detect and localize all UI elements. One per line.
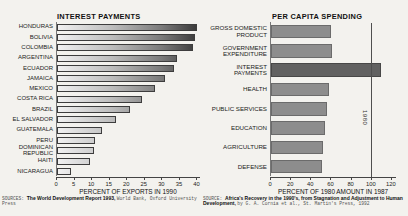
tick-mark xyxy=(109,178,110,181)
chart-row: GOVERNMENT EXPENDITURE xyxy=(204,41,396,60)
chart-title: PER CAPITA SPENDING xyxy=(272,13,396,21)
bar-track xyxy=(270,118,396,137)
bar-track xyxy=(56,135,200,145)
bar xyxy=(57,116,116,123)
bar-track xyxy=(56,94,200,104)
tick-label: 60 xyxy=(327,181,333,187)
chart-row: GROSS DOMESTIC PRODUCT xyxy=(204,22,396,41)
interest-payments-chart: INTEREST PAYMENTS HONDURASBOLIVIACOLOMBI… xyxy=(0,0,204,195)
category-label: ECUADOR xyxy=(0,66,56,72)
source-left: SOURCES: The World Development Report 19… xyxy=(0,196,203,207)
source-line: SOURCES: The World Development Report 19… xyxy=(0,196,408,207)
bar-track xyxy=(56,73,200,83)
plot-area: HONDURASBOLIVIACOLOMBIAARGENTINAECUADORJ… xyxy=(0,22,200,177)
category-label: EDUCATION xyxy=(204,125,270,131)
bar-track xyxy=(56,125,200,135)
bar-track xyxy=(56,156,200,166)
bar-track xyxy=(56,32,200,42)
category-label: HONDURAS xyxy=(0,24,56,30)
bar xyxy=(271,44,332,58)
category-label: ARGENTINA xyxy=(0,55,56,61)
chart-row: AGRICULTURE xyxy=(204,138,396,157)
chart-title: INTEREST PAYMENTS xyxy=(57,13,200,21)
tick-label: 5 xyxy=(72,181,75,187)
tick-mark xyxy=(310,178,311,181)
bar-track xyxy=(56,22,200,32)
bar-track xyxy=(56,166,200,176)
tick-label: 120 xyxy=(386,181,396,187)
bar-track xyxy=(270,41,396,60)
tick-label: 20 xyxy=(123,181,129,187)
x-axis-label: PERCENT OF 1980 AMOUNT IN 1987 xyxy=(270,188,396,195)
x-axis-label: PERCENT OF EXPORTS IN 1990 xyxy=(56,188,200,195)
bar-track xyxy=(56,63,200,73)
tick-mark xyxy=(391,178,392,181)
bar-track xyxy=(56,43,200,53)
tick-label: 30 xyxy=(158,181,164,187)
chart-row: HAITI xyxy=(0,156,200,166)
bar xyxy=(271,83,329,97)
bar-track xyxy=(270,80,396,99)
bar-track xyxy=(270,61,396,80)
reference-line-label: 1980 xyxy=(362,110,368,125)
tick-label: 20 xyxy=(287,181,293,187)
tick-label: 40 xyxy=(193,181,199,187)
bar xyxy=(57,65,174,72)
bar xyxy=(271,102,327,116)
category-label: GROSS DOMESTIC PRODUCT xyxy=(204,25,270,38)
chart-row: HEALTH xyxy=(204,80,396,99)
category-label: HAITI xyxy=(0,158,56,164)
category-label: GOVERNMENT EXPENDITURE xyxy=(204,45,270,58)
source-right: SOURCE: Africa's Recovery in the 1990's,… xyxy=(203,196,408,207)
chart-row: ARGENTINA xyxy=(0,53,200,63)
chart-row: JAMAICA xyxy=(0,73,200,83)
bar-track xyxy=(56,146,200,156)
x-axis: 0510152025303540 xyxy=(56,177,200,188)
category-label: PERU xyxy=(0,138,56,144)
bar xyxy=(57,75,165,82)
chart-row: INTEREST PAYMENTS xyxy=(204,61,396,80)
tick-mark xyxy=(196,178,197,181)
chart-row: ECUADOR xyxy=(0,63,200,73)
tick-label: 40 xyxy=(307,181,313,187)
tick-mark xyxy=(144,178,145,181)
plot-area: GROSS DOMESTIC PRODUCTGOVERNMENT EXPENDI… xyxy=(204,22,396,177)
chart-row: BRAZIL xyxy=(0,104,200,114)
category-label: PUBLIC SERVICES xyxy=(204,106,270,112)
bar xyxy=(57,55,177,62)
tick-mark xyxy=(56,178,57,181)
chart-row: COSTA RICA xyxy=(0,94,200,104)
category-label: EL SALVADOR xyxy=(0,117,56,123)
bar xyxy=(57,96,142,103)
category-label: GUATEMALA xyxy=(0,127,56,133)
chart-row: DOMINICAN REPUBLIC xyxy=(0,146,200,156)
tick-mark xyxy=(330,178,331,181)
chart-row: BOLIVIA xyxy=(0,32,200,42)
chart-row: MEXICO xyxy=(0,84,200,94)
tick-mark xyxy=(74,178,75,181)
bar xyxy=(57,168,71,175)
bar-track xyxy=(56,53,200,63)
bar-track xyxy=(270,138,396,157)
bar xyxy=(271,141,323,155)
bar-track xyxy=(270,157,396,176)
tick-mark xyxy=(290,178,291,181)
bar-track xyxy=(56,115,200,125)
tick-mark xyxy=(179,178,180,181)
bar xyxy=(57,85,155,92)
bar-track xyxy=(56,84,200,94)
tick-mark xyxy=(371,178,372,181)
bar xyxy=(57,137,95,144)
chart-row: HONDURAS xyxy=(0,22,200,32)
category-label: HEALTH xyxy=(204,86,270,92)
category-label: NICARAGUA xyxy=(0,169,56,175)
tick-label: 35 xyxy=(176,181,182,187)
tick-label: 0 xyxy=(268,181,271,187)
bar xyxy=(271,121,325,135)
tick-mark xyxy=(270,178,271,181)
tick-label: 10 xyxy=(88,181,94,187)
chart-row: GUATEMALA xyxy=(0,125,200,135)
bar-track xyxy=(270,99,396,118)
bar xyxy=(57,34,195,41)
tick-label: 15 xyxy=(105,181,111,187)
